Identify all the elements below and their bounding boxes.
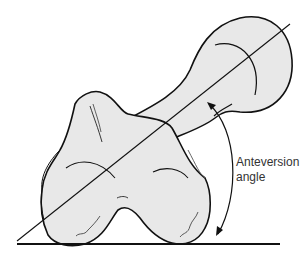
femur-anteversion-diagram: [0, 0, 307, 259]
label-line-1: Anteversion: [236, 155, 299, 170]
label-line-2: angle: [236, 170, 299, 185]
angle-arc: [209, 104, 233, 234]
anteversion-angle-label: Anteversion angle: [236, 155, 299, 185]
